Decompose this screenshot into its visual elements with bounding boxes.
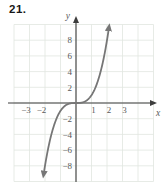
x-axis-label: x bbox=[155, 108, 161, 118]
y-tick-label: −4 bbox=[62, 130, 72, 140]
x-tick-label: −3 bbox=[21, 105, 31, 115]
y-tick-label: 2 bbox=[68, 83, 73, 93]
y-tick-label: −8 bbox=[62, 161, 72, 171]
y-tick-label: −2 bbox=[62, 114, 72, 124]
cubic-function-graph: −3−21238642−2−4−6−8 x y bbox=[0, 0, 164, 190]
x-tick-label: 1 bbox=[91, 105, 96, 115]
x-tick-label: 3 bbox=[122, 105, 127, 115]
y-tick-label: −6 bbox=[62, 145, 72, 155]
y-tick-label: 4 bbox=[68, 67, 73, 77]
exercise-figure: 21. −3−21238642−2−4−6−8 x y bbox=[0, 0, 164, 190]
y-axis-label: y bbox=[65, 11, 71, 21]
x-tick-label: −2 bbox=[37, 105, 47, 115]
y-tick-label: 8 bbox=[68, 35, 73, 45]
x-tick-label: 2 bbox=[107, 105, 112, 115]
y-tick-label: 6 bbox=[68, 51, 73, 61]
